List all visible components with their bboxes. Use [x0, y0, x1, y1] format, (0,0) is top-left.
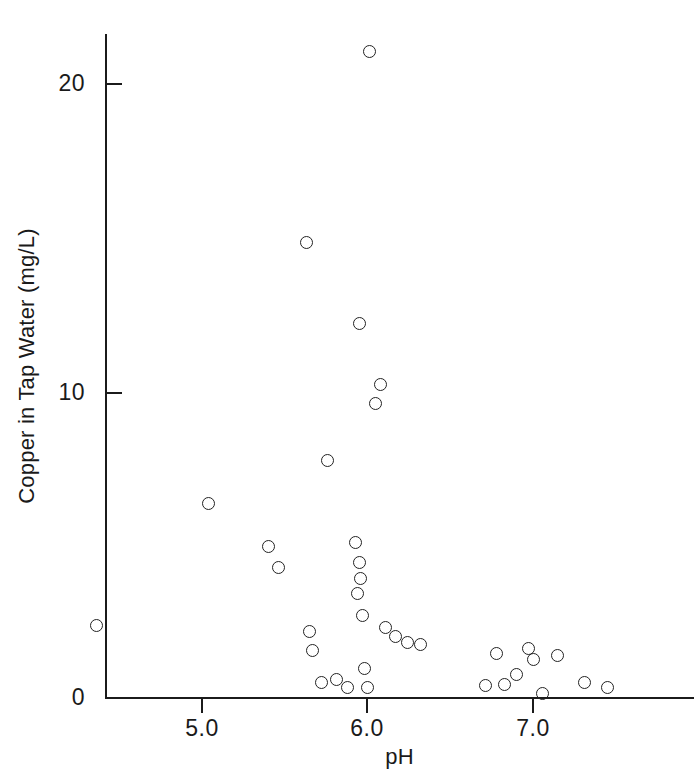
data-point — [303, 625, 316, 638]
x-axis-tick-label-6: 6.0 — [322, 716, 412, 740]
data-point — [527, 653, 540, 666]
data-point — [202, 497, 215, 510]
data-point — [315, 676, 328, 689]
data-point — [321, 454, 334, 467]
x-axis-tick-label-7: 7.0 — [488, 716, 578, 740]
data-point — [358, 662, 371, 675]
data-point — [363, 45, 376, 58]
data-point — [401, 636, 414, 649]
data-point — [262, 540, 275, 553]
data-point — [306, 644, 319, 657]
data-point — [536, 687, 549, 700]
data-point — [341, 681, 354, 694]
data-point — [354, 572, 367, 585]
data-point — [374, 378, 387, 391]
data-point — [272, 561, 285, 574]
scatter-chart-figure: 20 10 0 5.0 6.0 7.0 Copper in Tap Water … — [0, 0, 694, 782]
data-point — [300, 236, 313, 249]
plot-area — [105, 34, 694, 698]
data-point — [90, 619, 103, 632]
data-point — [479, 679, 492, 692]
data-point — [414, 638, 427, 651]
x-axis-title: pH — [105, 745, 694, 769]
data-point — [551, 649, 564, 662]
data-point — [369, 397, 382, 410]
data-point — [353, 317, 366, 330]
x-axis-tick-5 — [201, 699, 203, 713]
y-axis-title: Copper in Tap Water (mg/L) — [10, 34, 44, 698]
data-point — [361, 681, 374, 694]
data-point — [490, 647, 503, 660]
data-point — [601, 681, 614, 694]
data-point — [349, 536, 362, 549]
data-point — [353, 556, 366, 569]
x-axis-tick-label-5: 5.0 — [157, 716, 247, 740]
data-point — [578, 676, 591, 689]
data-point — [351, 587, 364, 600]
data-point — [510, 668, 523, 681]
data-point — [498, 678, 511, 691]
x-axis-tick-6 — [366, 699, 368, 713]
x-axis-tick-7 — [532, 699, 534, 713]
data-point — [356, 609, 369, 622]
